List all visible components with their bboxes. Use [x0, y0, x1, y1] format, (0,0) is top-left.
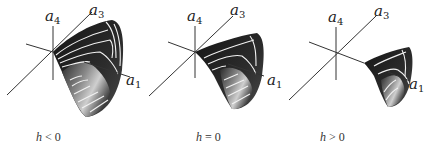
panel-h-negative: a4 a3 a1 h < 0 — [0, 0, 142, 153]
panel-h-positive: a4 a3 a1 h > 0 — [284, 0, 426, 153]
a4-label: a4 — [45, 9, 60, 26]
surface-diagram — [284, 0, 426, 153]
a3-label: a3 — [89, 3, 104, 20]
a2-axis — [26, 44, 53, 52]
caption: h < 0 — [36, 130, 61, 145]
caption: h > 0 — [320, 130, 345, 145]
caption: h = 0 — [196, 130, 221, 145]
a4-label: a4 — [187, 9, 202, 26]
a3-label: a3 — [374, 4, 389, 21]
a3-axis — [289, 16, 376, 100]
panel-h-zero: a4 a3 a1 h = 0 — [142, 0, 284, 153]
a1-label: a1 — [126, 73, 141, 90]
a1-label: a1 — [409, 77, 424, 94]
a4-label: a4 — [328, 10, 343, 27]
a2-axis — [168, 42, 195, 52]
a1-label: a1 — [267, 73, 282, 90]
surface-diagram — [0, 0, 142, 153]
a3-label: a3 — [230, 3, 245, 20]
